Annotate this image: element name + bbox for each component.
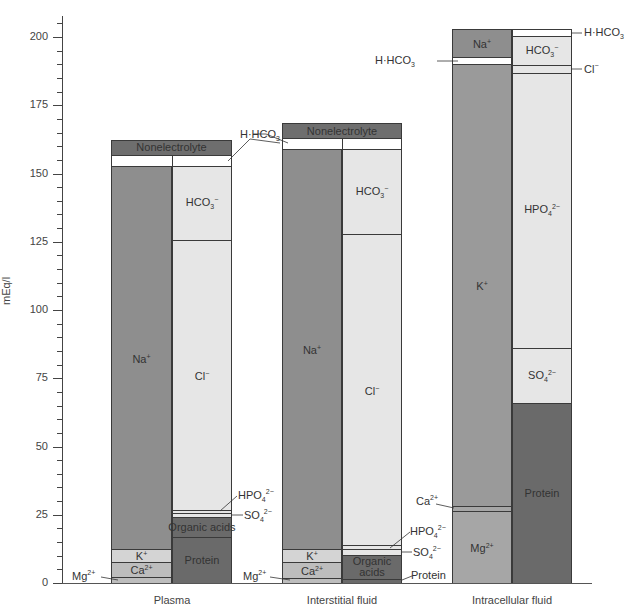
segment-label-na: Na+ <box>473 36 491 51</box>
segment-protein <box>342 579 402 583</box>
y-tick-label: 25 <box>18 508 48 520</box>
major-tick <box>53 583 62 584</box>
minor-tick <box>57 146 62 147</box>
y-tick-label: 200 <box>18 30 48 42</box>
segment-label-hco3: HCO3− <box>356 182 388 201</box>
minor-tick <box>57 255 62 256</box>
label-intracellular-cl: Cl− <box>584 62 598 75</box>
segment-mg2 <box>282 578 342 583</box>
label-interstitial-so4: SO42− <box>413 545 441 560</box>
segment-h-hco3 <box>512 29 572 36</box>
segment-mg2 <box>111 577 172 583</box>
y-tick-label: 0 <box>18 576 48 588</box>
segment-h-hco3 <box>452 57 512 64</box>
segment-label-cl: Cl− <box>195 368 209 383</box>
segment-label-k: K+ <box>476 278 487 293</box>
segment-label-ca2: Ca2+ <box>301 563 323 578</box>
minor-tick <box>57 187 62 188</box>
segment-label-mg2: Mg2+ <box>470 540 493 555</box>
segment-label-nonelectrolyte: Nonelectrolyte <box>136 142 206 153</box>
minor-tick <box>57 78 62 79</box>
minor-tick <box>57 556 62 557</box>
minor-tick <box>57 487 62 488</box>
minor-tick <box>57 365 62 366</box>
column-divider <box>172 155 173 166</box>
category-label-plasma: Plasma <box>154 594 191 606</box>
minor-tick <box>57 501 62 502</box>
minor-tick <box>57 283 62 284</box>
segment-label-na: Na+ <box>132 350 150 365</box>
label-plasma-mg: Mg2+ <box>72 569 95 582</box>
ion-composition-chart: 0255075100125150175200 mEq/l Nonelectrol… <box>0 0 633 616</box>
segment-label-so4-2: SO42− <box>528 366 556 385</box>
label-interstitial-protein: Protein <box>411 569 446 581</box>
segment-label-protein: Protein <box>185 555 220 566</box>
minor-tick <box>57 351 62 352</box>
minor-tick <box>57 92 62 93</box>
y-tick-label: 125 <box>18 235 48 247</box>
major-tick <box>53 515 62 516</box>
category-label-intracellular: Intracellular fluid <box>472 594 552 606</box>
major-tick <box>53 242 62 243</box>
segment-label-protein: Protein <box>525 488 560 499</box>
minor-tick <box>57 160 62 161</box>
column-divider <box>342 138 343 149</box>
major-tick <box>53 174 62 175</box>
minor-tick <box>57 133 62 134</box>
segment-label-k: K+ <box>136 548 147 563</box>
y-axis-line <box>62 16 63 584</box>
segment-label-cl: Cl− <box>365 382 379 397</box>
label-plasma-so4: SO42− <box>244 508 272 523</box>
minor-tick <box>57 433 62 434</box>
label-intracellular-hhco3-right: H·HCO3 <box>584 26 624 40</box>
minor-tick <box>57 406 62 407</box>
minor-tick <box>57 528 62 529</box>
label-interstitial-hpo4: HPO42− <box>410 524 446 539</box>
y-axis-label: mEq/l <box>0 277 12 305</box>
minor-tick <box>57 324 62 325</box>
label-interstitial-mg: Mg2+ <box>243 569 266 582</box>
segment-label-hco3: HCO3− <box>526 41 558 60</box>
minor-tick <box>57 201 62 202</box>
segment-label-organic-acids: Organic acids <box>168 522 235 533</box>
segment-label-organic-acids: Organicacids <box>353 556 392 578</box>
y-tick-label: 50 <box>18 440 48 452</box>
segment-cl <box>512 65 572 73</box>
major-tick <box>53 310 62 311</box>
label-intracellular-ca: Ca2+ <box>416 494 438 507</box>
minor-tick <box>57 419 62 420</box>
segment-label-na: Na+ <box>303 342 321 357</box>
segment-so4-2 <box>342 549 402 555</box>
segment-label-hco3: HCO3− <box>186 194 218 213</box>
segment-label-nonelectrolyte: Nonelectrolyte <box>307 125 377 136</box>
label-plasma-hpo4: HPO42− <box>238 488 274 503</box>
minor-tick <box>57 64 62 65</box>
label-intracellular-hhco3-left: H·HCO3 <box>375 54 415 68</box>
minor-tick <box>57 296 62 297</box>
minor-tick <box>57 337 62 338</box>
segment-hpo4-2 <box>342 545 402 549</box>
category-label-interstitial: Interstitial fluid <box>307 594 377 606</box>
minor-tick <box>57 51 62 52</box>
y-tick-label: 75 <box>18 371 48 383</box>
segment-ca2 <box>452 506 512 511</box>
segment-label-k: K+ <box>306 548 317 563</box>
major-tick <box>53 447 62 448</box>
x-axis-line <box>62 583 592 584</box>
minor-tick <box>57 23 62 24</box>
segment-label-hpo4-2: HPO42− <box>524 201 560 220</box>
y-tick-label: 100 <box>18 303 48 315</box>
minor-tick <box>57 569 62 570</box>
segment-so4-2 <box>172 513 232 517</box>
major-tick <box>53 105 62 106</box>
segment-label-ca2: Ca2+ <box>130 562 152 577</box>
y-tick-label: 150 <box>18 167 48 179</box>
minor-tick <box>57 392 62 393</box>
minor-tick <box>57 460 62 461</box>
label-plasma-hhco3: H·HCO3 <box>240 128 280 142</box>
minor-tick <box>57 474 62 475</box>
minor-tick <box>57 542 62 543</box>
major-tick <box>53 378 62 379</box>
minor-tick <box>57 119 62 120</box>
minor-tick <box>57 228 62 229</box>
